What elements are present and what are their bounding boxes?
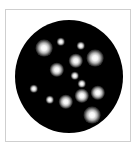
black-circular-field (15, 20, 123, 133)
bright-spot-large (84, 107, 101, 124)
bright-spot-large (36, 40, 53, 57)
bright-spot-large (87, 50, 104, 67)
